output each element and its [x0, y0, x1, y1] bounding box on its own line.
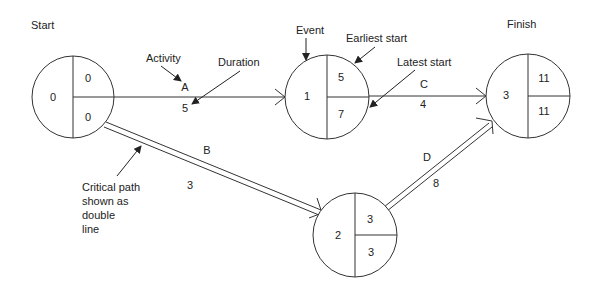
node-1-event: 1	[304, 90, 310, 102]
svg-text:double: double	[82, 209, 115, 221]
node-finish	[486, 54, 570, 138]
activity-c-name: C	[420, 78, 428, 90]
annotation-latest-start: Latest start	[397, 56, 451, 68]
node-2-latest: 3	[368, 246, 374, 258]
annotation-event: Event	[296, 24, 324, 36]
annotation-duration: Duration	[218, 56, 260, 68]
svg-text:Critical path: Critical path	[82, 181, 140, 193]
node-2-earliest: 3	[367, 213, 373, 225]
node-2-event: 2	[335, 229, 341, 241]
activity-a-duration: 5	[182, 102, 188, 114]
activity-d-duration: 8	[433, 177, 439, 189]
node-0-event: 0	[50, 91, 56, 103]
node-0-latest: 0	[85, 111, 91, 123]
critical-path-pointer	[117, 146, 141, 176]
duration-pointer	[192, 71, 240, 104]
node-event-1	[285, 55, 369, 139]
annotation-critical-path: Critical path shown as double line	[82, 181, 140, 235]
latest-start-pointer	[370, 70, 415, 107]
start-label: Start	[31, 19, 54, 31]
activity-d-name: D	[423, 151, 431, 163]
node-start	[32, 56, 114, 138]
svg-text:shown as: shown as	[82, 195, 129, 207]
activity-b-duration: 3	[187, 179, 193, 191]
node-3-latest: 11	[538, 105, 549, 117]
node-3-earliest: 11	[538, 72, 549, 84]
activity-c-duration: 4	[420, 98, 426, 110]
node-event-2	[313, 193, 397, 277]
network-diagram: 0 0 0 1 5 7 3 11 11 2 3 3 A 5 C 4 B 3 D …	[0, 0, 596, 296]
activity-a-arrow	[114, 89, 285, 105]
node-1-earliest: 5	[338, 71, 344, 83]
node-0-earliest: 0	[85, 72, 91, 84]
earliest-start-pointer	[355, 47, 375, 63]
annotation-activity: Activity	[146, 52, 181, 64]
finish-label: Finish	[507, 18, 536, 30]
annotation-earliest-start: Earliest start	[346, 32, 407, 44]
activity-c-arrow	[369, 88, 486, 104]
activity-b-critical-arrow	[104, 122, 322, 218]
activity-a-name: A	[181, 81, 189, 93]
node-3-event: 3	[503, 89, 509, 101]
activity-d-critical-arrow	[384, 118, 493, 211]
activity-b-name: B	[203, 144, 210, 156]
activity-pointer	[161, 66, 181, 81]
node-1-latest: 7	[338, 108, 344, 120]
svg-text:line: line	[82, 223, 99, 235]
